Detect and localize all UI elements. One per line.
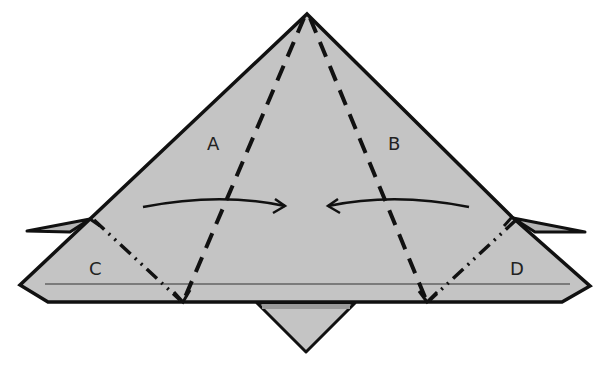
label-d: D [510, 258, 524, 279]
paper-body [20, 14, 590, 302]
bottom-point-triangle [257, 303, 355, 352]
label-c: C [89, 258, 102, 279]
label-a: A [207, 133, 220, 154]
label-b: B [388, 133, 400, 154]
origami-diagram: A B C D [0, 0, 607, 367]
